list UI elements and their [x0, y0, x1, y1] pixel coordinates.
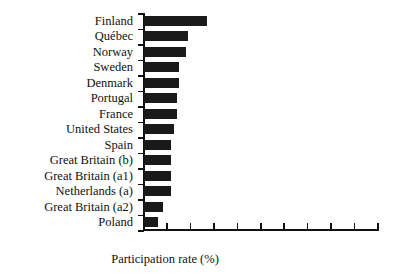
category-label: Poland	[0, 215, 139, 231]
bar	[144, 124, 174, 134]
category-label: United States	[0, 122, 139, 138]
category-label: Great Britain (a2)	[0, 199, 139, 215]
category-label: Spain	[0, 137, 139, 153]
category-label: Portugal	[0, 91, 139, 107]
x-axis-tick	[237, 223, 239, 230]
bar-row	[144, 75, 378, 91]
bar	[144, 16, 207, 26]
bar-row	[144, 137, 378, 153]
x-axis-tick-group	[143, 223, 379, 230]
x-axis-tick	[190, 223, 192, 230]
category-label: Great Britain (b)	[0, 153, 139, 169]
category-label: Sweden	[0, 60, 139, 76]
bar-row	[144, 13, 378, 29]
plot-area	[144, 13, 378, 230]
bar-row	[144, 153, 378, 169]
bar-row	[144, 199, 378, 215]
bar	[144, 140, 171, 150]
bar	[144, 62, 179, 72]
bar-row	[144, 168, 378, 184]
x-axis-tick	[330, 223, 332, 230]
category-label: Denmark	[0, 75, 139, 91]
bar	[144, 202, 163, 212]
bar	[144, 47, 186, 57]
bar-group	[144, 13, 378, 230]
category-label: Québec	[0, 29, 139, 45]
bar	[144, 31, 188, 41]
bar-row	[144, 106, 378, 122]
category-label: Finland	[0, 13, 139, 29]
category-label: Great Britain (a1)	[0, 168, 139, 184]
x-axis-tick	[283, 223, 285, 230]
x-axis-tick	[166, 223, 168, 230]
x-axis-tick	[354, 223, 356, 230]
x-axis-tick	[260, 223, 262, 230]
category-label: Netherlands (a)	[0, 184, 139, 200]
category-label: Norway	[0, 44, 139, 60]
bar-row	[144, 29, 378, 45]
bar-row	[144, 60, 378, 76]
bar-row	[144, 91, 378, 107]
bar	[144, 186, 171, 196]
x-axis-tick	[213, 223, 215, 230]
bar	[144, 93, 177, 103]
bar-row	[144, 184, 378, 200]
x-axis-tick	[143, 223, 145, 230]
bar	[144, 171, 171, 181]
category-label-column: FinlandQuébecNorwaySwedenDenmarkPortugal…	[0, 13, 139, 230]
bar-row	[144, 122, 378, 138]
x-axis-tick	[307, 223, 309, 230]
bar	[144, 155, 171, 165]
bar-row	[144, 44, 378, 60]
bar	[144, 109, 177, 119]
category-label: France	[0, 106, 139, 122]
bar	[144, 78, 179, 88]
horizontal-bar-chart: FinlandQuébecNorwaySwedenDenmarkPortugal…	[0, 0, 401, 280]
x-axis-tick	[377, 223, 379, 230]
x-axis-title: Participation rate (%)	[0, 252, 330, 267]
